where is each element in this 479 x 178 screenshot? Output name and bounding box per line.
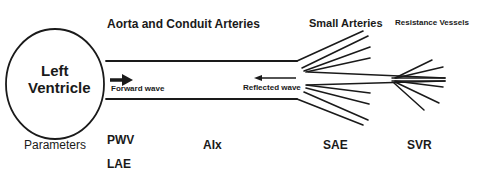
ventricle-label-line1: Left (41, 63, 69, 78)
param-aix: AIx (203, 139, 222, 151)
ventricle-label-line2: Ventricle (28, 80, 91, 95)
forward-wave-label: Forward wave (111, 85, 164, 93)
param-lae: LAE (107, 158, 131, 170)
aorta-header: Aorta and Conduit Arteries (107, 18, 260, 30)
reflected-wave-label: Reflected wave (243, 84, 301, 92)
param-pwv: PWV (107, 134, 134, 146)
param-sae: SAE (323, 139, 348, 151)
param-svr: SVR (407, 139, 432, 151)
reflected-arrow-icon (254, 75, 296, 81)
resistance-vessels-header: Resistance Vessels (395, 19, 469, 27)
parameters-label: Parameters (24, 139, 86, 151)
small-arteries-header: Small Arteries (309, 18, 383, 29)
